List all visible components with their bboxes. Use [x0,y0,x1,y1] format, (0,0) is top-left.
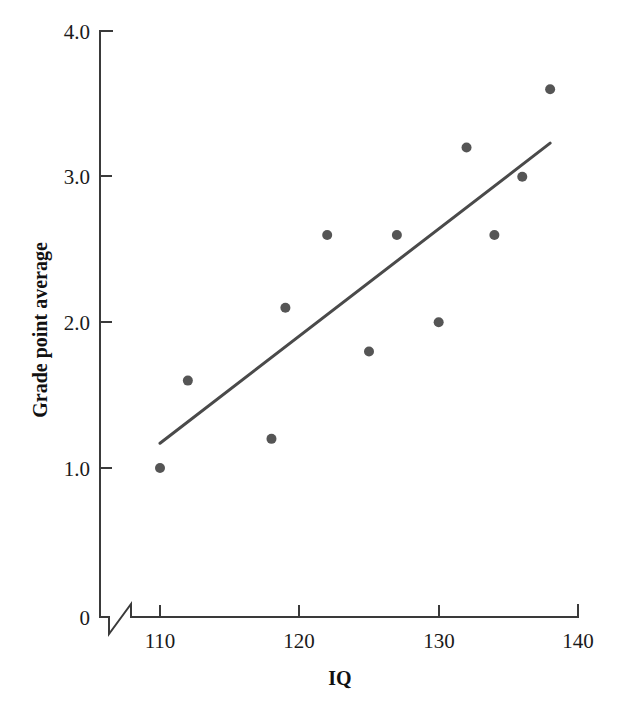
y-axis-title: Grade point average [29,242,52,418]
chart-canvas: 4.0 3.0 2.0 1.0 0 110 120 130 140 IQ Gra… [0,0,620,706]
data-point [517,172,527,182]
data-point [183,376,193,386]
data-point [266,434,276,444]
data-point [462,143,472,153]
y-tick-label-0: 0 [80,606,91,630]
y-axis-ticks [100,31,112,468]
x-tick-label-130: 130 [423,629,455,653]
y-axis-tick-labels: 4.0 3.0 2.0 1.0 0 [64,20,90,630]
x-axis-title: IQ [328,667,351,689]
data-point [489,230,499,240]
data-point [545,84,555,94]
x-tick-label-120: 120 [283,629,315,653]
data-point [364,346,374,356]
x-axis-ticks [160,605,578,617]
y-tick-label-1: 1.0 [64,457,90,481]
scatter-plot-figure: 4.0 3.0 2.0 1.0 0 110 120 130 140 IQ Gra… [0,0,620,706]
data-points-group [155,84,555,473]
y-tick-label-3: 3.0 [64,165,90,189]
trend-line [160,143,550,443]
y-tick-label-2: 2.0 [64,311,90,335]
x-axis-tick-labels: 110 120 130 140 [145,629,594,653]
x-tick-label-140: 140 [562,629,594,653]
data-point [322,230,332,240]
data-point [155,463,165,473]
data-point [434,317,444,327]
y-tick-label-4: 4.0 [64,20,90,44]
x-tick-label-110: 110 [145,629,176,653]
data-point [392,230,402,240]
data-point [280,303,290,313]
y-axis-line [100,31,112,617]
